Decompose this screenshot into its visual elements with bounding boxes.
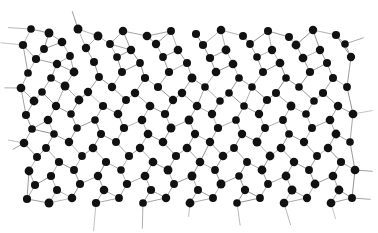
atom [73,124,81,132]
atom [136,59,144,67]
atom [264,27,272,35]
atom [183,144,192,153]
atom [300,138,308,146]
atom [299,54,308,63]
atom [136,144,144,152]
atom [139,199,147,207]
atom [50,130,58,138]
atom [219,152,228,161]
atom [206,54,214,62]
atom [167,124,176,133]
atom [232,116,240,124]
atom [45,29,54,38]
atom [302,110,310,118]
atom [113,53,121,61]
atom [94,32,103,41]
atom [253,53,261,61]
atom [22,111,30,119]
atom [188,172,197,181]
atom [243,158,251,166]
atom [212,68,221,77]
atom [164,166,173,175]
atom [125,152,133,160]
atom [264,180,272,188]
atom [24,69,32,77]
atom [319,89,327,97]
atom [161,110,169,118]
atom [186,199,195,208]
atom [282,172,291,181]
atom [233,199,241,207]
atom [268,46,276,54]
atom [152,40,160,48]
atom [20,139,29,148]
atom [183,59,191,67]
atom [27,25,35,33]
atom [337,158,345,166]
atom [334,102,342,110]
atom [329,74,337,82]
atom [230,144,238,152]
atom [112,138,120,146]
atom [192,30,200,38]
atom [240,102,248,110]
atom [193,102,202,111]
atom [138,116,147,125]
atom [76,180,84,188]
atom [123,180,131,188]
atom [241,186,249,194]
atom [199,41,207,49]
atom [58,38,67,47]
atom [253,138,262,147]
atom [306,68,314,76]
atom [114,110,123,119]
atom [146,102,155,111]
atom [159,53,167,61]
atom [290,158,298,166]
atom [25,167,34,176]
atom [263,96,271,104]
atom [47,172,55,180]
atom [222,46,231,55]
atom [127,46,135,54]
atom [102,158,110,166]
atom [196,158,205,167]
atom [91,116,99,124]
atom [208,110,216,118]
atom [206,138,214,146]
atom [261,124,269,132]
atom [229,60,238,69]
atom [185,116,194,125]
atom [66,52,74,60]
atom [349,110,358,119]
atom [172,152,180,160]
atom [248,83,256,91]
atom [84,88,92,96]
atom [143,32,152,41]
atom [141,74,149,82]
atom [141,172,150,181]
atom [40,45,48,53]
atom [255,110,263,118]
atom [303,194,311,202]
atom [31,181,39,189]
atom [309,26,317,34]
atom [272,89,280,97]
atom [313,152,321,160]
atom [75,96,84,105]
atom [52,102,60,110]
atom [97,130,105,138]
atom [201,83,209,91]
atom [53,60,61,68]
atom [55,158,63,166]
atom [310,97,318,105]
atom [316,46,324,54]
atom [323,59,331,67]
atom [282,74,290,82]
atom [216,97,224,105]
amorphous-network-diagram [0,0,378,233]
atom [348,194,356,202]
atom [23,195,31,203]
atom [74,25,83,34]
atom [169,96,177,104]
